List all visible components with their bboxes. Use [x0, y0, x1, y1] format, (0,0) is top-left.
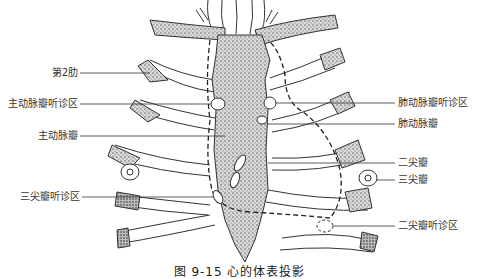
label-aortic-valve: 主动脉瓣	[10, 130, 78, 142]
sternum	[212, 35, 270, 262]
figure-caption: 图 9-15 心的体表投影	[0, 262, 479, 279]
label-pulmonary-auscultation-area: 肺动脉瓣听诊区	[398, 97, 468, 109]
label-mitral-valve: 二尖瓣	[398, 157, 428, 169]
label-tricuspid-valve: 三尖瓣	[398, 174, 428, 186]
label-pulmonary-valve: 肺动脉瓣	[398, 118, 438, 130]
label-tricuspid-auscultation-area: 三尖瓣听诊区	[0, 191, 80, 203]
leader-lines-left	[80, 73, 225, 197]
label-rib-2: 第2肋	[20, 67, 78, 79]
ribs-left	[108, 60, 215, 248]
leader-lines-right	[267, 103, 395, 226]
ribs-right	[266, 48, 378, 252]
label-aortic-auscultation-area: 主动脉瓣听诊区	[0, 98, 78, 110]
label-mitral-auscultation-area: 二尖瓣听诊区	[398, 220, 458, 232]
